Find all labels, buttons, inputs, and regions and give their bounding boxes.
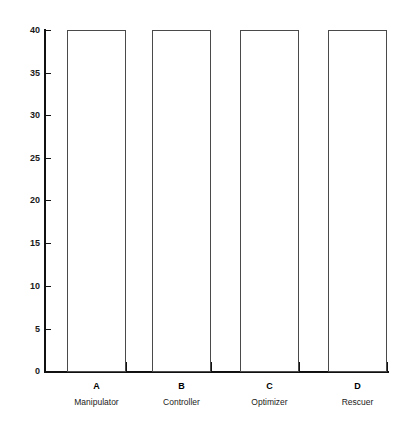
y-axis-tick [46,115,51,116]
y-axis-tick [46,158,51,159]
y-axis-tick-label: 15 [14,239,40,248]
x-axis-tick [387,362,388,371]
y-axis-tick-label: 30 [14,111,40,120]
x-axis-tick [211,362,212,371]
x-axis-tick [126,362,127,371]
x-axis-tick [299,362,300,371]
x-axis-category-name: Optimizer [220,396,319,408]
y-axis-tick [46,371,51,372]
y-axis-tick [46,200,51,201]
y-axis-tick [46,286,51,287]
x-axis-category-d: D Rescuer [308,381,407,408]
y-axis-tick [46,30,51,31]
y-axis-tick-label: 20 [14,196,40,205]
bar-a [67,30,126,372]
x-axis-category-letter: C [220,381,319,392]
x-axis-category-letter: D [308,381,407,392]
x-axis-category-name: Rescuer [308,396,407,408]
y-axis-tick [46,243,51,244]
chart-title [0,0,407,4]
y-axis-tick [46,73,51,74]
y-axis-tick-label: 35 [14,69,40,78]
y-axis-tick-label: 0 [14,367,40,376]
x-axis-category-b: B Controller [132,381,231,408]
y-axis-tick [46,329,51,330]
y-axis-tick-label: 25 [14,154,40,163]
y-axis-tick-label: 40 [14,26,40,35]
bar-d [328,30,387,372]
x-axis-category-name: Controller [132,396,231,408]
bar-c [240,30,299,372]
bar-chart: 40 35 30 25 20 15 10 5 0 A [0,0,407,429]
x-axis-category-c: C Optimizer [220,381,319,408]
y-axis-line [44,29,46,373]
y-axis-tick-label: 5 [14,325,40,334]
y-axis-tick-label: 10 [14,282,40,291]
bar-b [152,30,211,372]
x-axis-category-letter: B [132,381,231,392]
